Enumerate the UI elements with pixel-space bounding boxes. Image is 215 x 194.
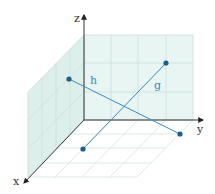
x-axis-label: x <box>13 176 19 187</box>
line-h-label: h <box>90 75 97 86</box>
point-h-end <box>177 131 182 136</box>
point-g-end <box>80 146 85 151</box>
coordinate-diagram <box>0 0 215 194</box>
z-axis-label: z <box>74 13 80 24</box>
line-g-label: g <box>154 80 161 91</box>
point-h-start <box>66 76 71 81</box>
point-g-start <box>163 60 168 65</box>
back-wall-yz <box>84 35 193 120</box>
y-axis-label: y <box>197 124 203 135</box>
